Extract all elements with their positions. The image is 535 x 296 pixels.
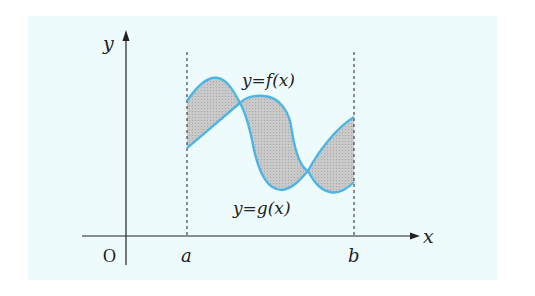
- y-axis-label: y: [102, 32, 114, 54]
- a-label: a: [181, 245, 192, 266]
- y-axis-arrow-icon: [123, 30, 130, 41]
- origin-label: O: [103, 246, 116, 266]
- b-label: b: [348, 245, 360, 266]
- x-axis-label: x: [423, 225, 434, 247]
- area-between-curves-diagram: y x O a b y=f(x) y=g(x): [0, 0, 535, 296]
- f-curve-label: y=f(x): [241, 70, 295, 90]
- g-curve-label: y=g(x): [232, 198, 291, 218]
- x-axis-arrow-icon: [410, 233, 420, 240]
- shaded-region: [187, 78, 354, 193]
